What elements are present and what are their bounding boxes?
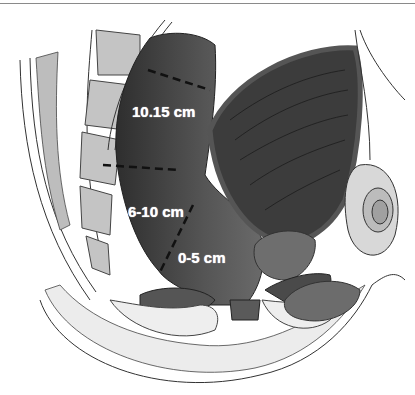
label-upper-rectum: 10.15 cm [132,103,195,120]
anal-sphincter [230,300,260,320]
label-lower-rectum: 0-5 cm [178,249,226,266]
label-middle-rectum: 6-10 cm [128,203,184,220]
anatomy-figure: 10.15 cm 6-10 cm 0-5 cm [0,0,415,395]
prostate [254,231,315,280]
pelvis-illustration [0,0,415,395]
